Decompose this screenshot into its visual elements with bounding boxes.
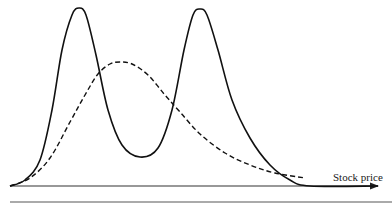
dashed-curve: [10, 62, 305, 186]
solid-curve: [10, 8, 378, 186]
x-axis-label: Stock price: [333, 171, 383, 183]
